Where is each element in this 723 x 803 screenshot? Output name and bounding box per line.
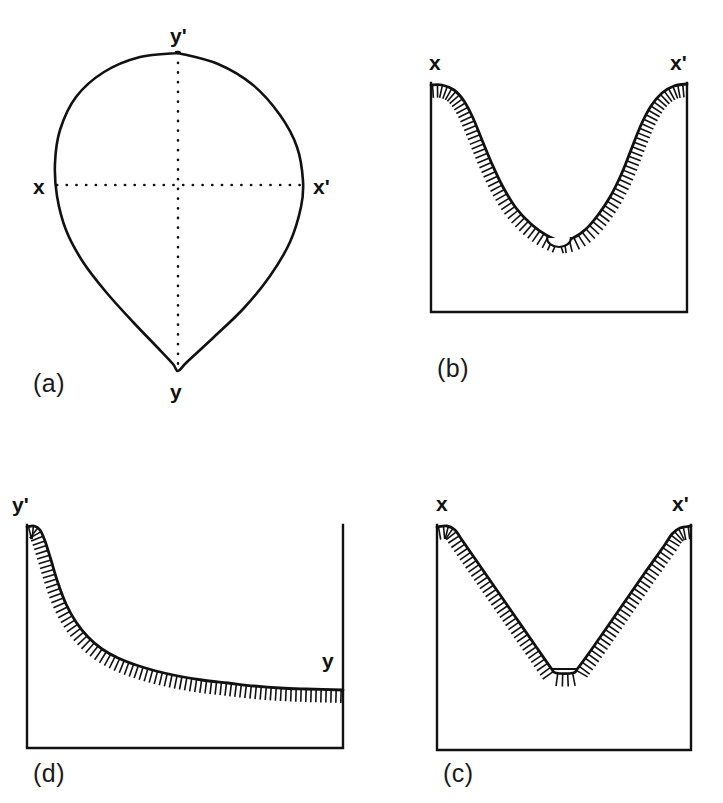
hachure-tick xyxy=(230,683,232,696)
hachure-tick xyxy=(501,202,512,209)
hachure-tick xyxy=(488,181,500,187)
hachure-tick xyxy=(573,673,575,686)
hachure-tick xyxy=(275,688,276,701)
hachure-tick xyxy=(528,228,536,238)
hachure-tick xyxy=(619,179,631,184)
hachure-tick xyxy=(34,546,46,550)
hachure-tick xyxy=(464,126,476,131)
hachure-tick xyxy=(498,198,509,205)
hachure-tick xyxy=(190,678,192,691)
hachure-tick xyxy=(104,654,110,665)
hachure-tick xyxy=(508,211,518,219)
hachure-tick xyxy=(625,165,637,170)
hachure-tick xyxy=(484,172,496,177)
hachure-tick xyxy=(617,184,629,190)
panel-c-caption: (c) xyxy=(443,759,474,787)
figure-canvas: y' x x' y (a) x x' (b) x x' (c) xyxy=(0,0,723,803)
hachure-tick xyxy=(482,167,494,172)
panel-d-profile-curve xyxy=(27,526,343,690)
panel-b-caption: (b) xyxy=(437,354,469,382)
hachure-tick xyxy=(41,570,53,574)
hachure-tick xyxy=(265,687,266,700)
hachure-tick xyxy=(621,175,633,180)
hachure-tick xyxy=(64,620,75,627)
hachure-tick xyxy=(475,153,487,158)
hachure-tick xyxy=(90,646,98,656)
hachure-tick xyxy=(636,138,648,143)
hachure-tick xyxy=(144,669,148,681)
hachure-tick xyxy=(174,676,177,689)
hachure-tick xyxy=(590,225,600,234)
panel-a-label-x-prime-right: x' xyxy=(313,175,330,198)
panel-d-frame xyxy=(27,525,343,748)
hachure-tick xyxy=(67,624,78,631)
hachure-tick xyxy=(169,675,172,688)
panel-b-label-x-left: x xyxy=(429,51,441,74)
panel-a-label-x-left: x xyxy=(33,175,45,198)
hachure-tick xyxy=(220,682,221,695)
hachure-tick xyxy=(472,144,484,149)
hachure-tick xyxy=(255,686,256,699)
hachure-tick xyxy=(474,149,486,154)
hachure-tick xyxy=(53,603,65,608)
hachure-tick xyxy=(632,147,644,152)
hachure-tick xyxy=(607,201,618,208)
hachure-tick xyxy=(470,139,482,144)
hachure-tick xyxy=(532,231,539,242)
hachure-tick xyxy=(615,188,627,194)
hachure-tick xyxy=(491,185,503,191)
hachure-tick xyxy=(195,679,197,692)
hachure-tick xyxy=(630,152,642,157)
panel-a: y' x x' y (a) xyxy=(33,24,330,403)
hachure-tick xyxy=(245,685,246,698)
hachure-tick xyxy=(468,135,480,140)
hachure-tick xyxy=(493,190,504,196)
hachure-tick xyxy=(486,176,498,182)
hachure-tick xyxy=(95,649,102,660)
panel-a-label-y-prime-top: y' xyxy=(170,24,187,47)
figure-root: y' x x' y (a) x x' (b) x x' (c) xyxy=(0,0,723,803)
hachure-tick xyxy=(556,673,558,686)
hachure-tick xyxy=(610,197,621,203)
panel-c: x x' (c) xyxy=(436,492,691,787)
panel-b-basin-marker xyxy=(547,238,571,247)
panel-d-caption: (d) xyxy=(33,759,65,787)
hachure-tick xyxy=(149,670,152,683)
hachure-tick xyxy=(139,667,143,679)
hachure-tick xyxy=(438,527,440,540)
hachure-tick xyxy=(124,662,128,674)
hachure-tick xyxy=(688,526,690,539)
hachure-tick xyxy=(460,116,472,122)
hachure-tick xyxy=(40,565,52,569)
hachure-tick xyxy=(496,194,507,201)
hachure-tick xyxy=(537,234,544,245)
hachure-tick xyxy=(180,677,182,690)
hachure-tick xyxy=(260,687,261,700)
hachure-tick xyxy=(205,681,207,694)
hachure-tick xyxy=(119,661,124,673)
hachure-tick xyxy=(433,85,434,98)
hachure-tick xyxy=(270,687,271,700)
hachure-tick xyxy=(49,593,61,598)
hachure-tick xyxy=(33,541,45,545)
hachure-tick xyxy=(644,119,656,125)
hachure-tick xyxy=(504,207,515,215)
panel-c-hachure-group xyxy=(438,526,689,687)
hachure-tick xyxy=(440,85,443,98)
hachure-tick xyxy=(200,680,202,693)
panel-c-label-x-prime-right: x' xyxy=(672,492,689,515)
hachure-tick xyxy=(586,229,595,239)
hachure-tick xyxy=(58,612,69,618)
hachure-tick xyxy=(159,673,162,686)
hachure-tick xyxy=(225,683,226,696)
hachure-tick xyxy=(46,584,58,588)
hachure-tick xyxy=(466,130,478,135)
panel-a-label-y-bottom: y xyxy=(170,380,182,403)
hachure-tick xyxy=(629,156,641,161)
hachure-tick xyxy=(477,158,489,163)
hachure-tick xyxy=(638,133,650,138)
hachure-tick xyxy=(678,85,680,98)
panel-d-label-y-prime-left: y' xyxy=(12,493,29,516)
hachure-tick xyxy=(235,684,237,697)
hachure-tick xyxy=(43,574,55,578)
